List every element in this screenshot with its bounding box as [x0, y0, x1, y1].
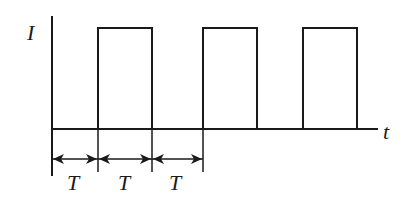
- pulse-2: [203, 28, 257, 129]
- square-wave-diagram: I t T T T: [0, 0, 416, 204]
- period-label-2: T: [118, 170, 132, 195]
- pulse-1: [98, 28, 152, 129]
- period-label-3: T: [169, 170, 183, 195]
- pulse-3: [303, 28, 357, 129]
- y-axis-label: I: [26, 20, 36, 45]
- x-axis-label: t: [383, 119, 390, 144]
- period-label-1: T: [67, 170, 81, 195]
